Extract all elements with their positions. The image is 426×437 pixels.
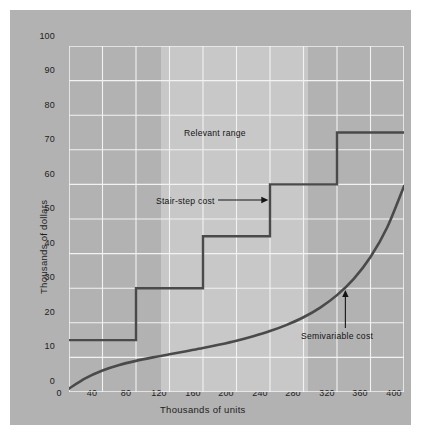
relevant-range-annotation: Relevant range (184, 128, 246, 138)
y-tick-label-0: 0 (22, 376, 55, 386)
y-tick-label-70: 70 (22, 134, 55, 144)
stair-step-cost-annotation: Stair-step cost (156, 196, 215, 206)
chart-panel: Thousands of dollars 100 90 80 70 60 50 … (10, 10, 411, 425)
annotation-arrows (218, 197, 349, 328)
x-axis-title: Thousands of units (160, 404, 246, 415)
y-tick-label-90: 90 (22, 65, 55, 75)
plot-area: Relevant range Stair-step cost Semivaria… (69, 46, 404, 392)
y-tick-label-60: 60 (22, 169, 55, 179)
y-tick-label-80: 80 (22, 100, 55, 110)
y-tick-label-10: 10 (22, 341, 55, 351)
stair-step-arrow-head (261, 197, 268, 203)
y-tick-label-30: 30 (22, 272, 55, 282)
semivariable-cost-annotation: Semivariable cost (301, 331, 373, 341)
chart-figure: Thousands of dollars 100 90 80 70 60 50 … (0, 0, 426, 437)
y-tick-label-20: 20 (22, 307, 55, 317)
y-tick-label-50: 50 (22, 203, 55, 213)
y-tick-label-40: 40 (22, 238, 55, 248)
y-tick-label-100: 100 (22, 31, 55, 41)
